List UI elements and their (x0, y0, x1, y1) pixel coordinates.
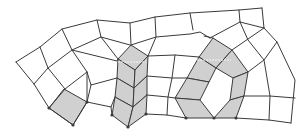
shaded-cell-left-cell (49, 89, 87, 125)
mesh-edge (87, 85, 91, 102)
mesh-edge (97, 20, 101, 37)
mesh-node (126, 125, 129, 128)
mesh-edge (264, 28, 295, 123)
shaded-cell-ring-bottom-right (214, 96, 244, 118)
mesh-edge (190, 13, 193, 30)
mesh-edge (148, 17, 156, 56)
mesh-edge (148, 55, 199, 57)
mesh-edge (40, 47, 65, 89)
mesh-node (71, 123, 74, 126)
mesh-node (212, 116, 215, 119)
mesh-edge (236, 118, 291, 123)
mesh-edge (87, 97, 115, 107)
mesh-edge (131, 32, 210, 45)
mesh-edge (210, 22, 240, 38)
mesh-node (144, 112, 147, 115)
mesh-edge (167, 55, 175, 115)
mesh-edge (147, 95, 175, 98)
mesh-edge (239, 8, 264, 28)
mesh-edge (147, 76, 187, 78)
mesh-edge (130, 23, 131, 45)
mesh-edge (87, 72, 117, 85)
mesh-node (47, 106, 50, 109)
mesh-edge (146, 114, 186, 118)
mesh-edge (248, 42, 277, 72)
mesh-node (234, 116, 237, 119)
quad-mesh-diagram (0, 0, 303, 133)
mesh-edge (101, 37, 118, 59)
shaded-cell-ring-bottom-left (175, 98, 214, 118)
mesh-node (85, 100, 88, 103)
shaded-cell-ring-left (175, 78, 209, 100)
mesh-node (184, 116, 187, 119)
mesh-node (110, 113, 113, 116)
